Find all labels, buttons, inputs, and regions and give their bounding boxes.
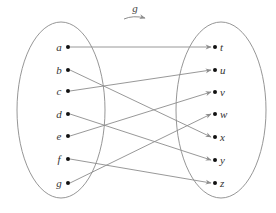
codomain-elements: tuvwxyz — [213, 41, 228, 189]
mapping-arrow-f-to-z — [70, 159, 211, 183]
codomain-element-label: w — [220, 108, 228, 120]
domain-element-a: a — [56, 41, 70, 53]
point-dot-icon — [213, 45, 217, 49]
codomain-element-w: w — [213, 108, 228, 120]
domain-element-label: f — [57, 153, 62, 165]
domain-element-label: d — [56, 108, 62, 120]
codomain-element-label: t — [220, 41, 224, 53]
domain-element-b: b — [56, 64, 70, 76]
codomain-element-label: y — [219, 154, 225, 166]
codomain-element-z: z — [213, 177, 225, 189]
function-name-label: g — [132, 2, 138, 14]
domain-element-label: b — [56, 64, 62, 76]
domain-element-c: c — [57, 85, 70, 97]
domain-element-g: g — [56, 177, 70, 189]
point-dot-icon — [66, 181, 70, 185]
function-arrow-icon — [124, 17, 145, 19]
point-dot-icon — [66, 68, 70, 72]
codomain-element-label: v — [220, 86, 225, 98]
mapping-arrow-d-to-y — [70, 114, 211, 160]
point-dot-icon — [213, 68, 217, 72]
codomain-element-label: u — [220, 64, 226, 76]
domain-element-label: a — [56, 41, 62, 53]
point-dot-icon — [66, 134, 70, 138]
codomain-element-t: t — [213, 41, 224, 53]
point-dot-icon — [66, 45, 70, 49]
function-title: g — [124, 2, 145, 19]
domain-element-d: d — [56, 108, 70, 120]
codomain-element-label: x — [219, 131, 225, 143]
point-dot-icon — [66, 112, 70, 116]
domain-elements: abcdefg — [56, 41, 70, 189]
point-dot-icon — [213, 112, 217, 116]
codomain-element-x: x — [213, 131, 225, 143]
point-dot-icon — [213, 158, 217, 162]
domain-element-label: g — [56, 177, 62, 189]
domain-element-f: f — [57, 153, 70, 165]
codomain-element-v: v — [213, 86, 225, 98]
point-dot-icon — [213, 135, 217, 139]
function-mapping-diagram: g abcdefg tuvwxyz — [0, 0, 276, 213]
codomain-element-u: u — [213, 64, 226, 76]
point-dot-icon — [66, 157, 70, 161]
codomain-element-label: z — [219, 177, 225, 189]
mapping-arrows — [70, 47, 211, 183]
domain-element-e: e — [57, 130, 70, 142]
point-dot-icon — [66, 89, 70, 93]
mapping-arrow-e-to-v — [70, 92, 211, 136]
domain-element-label: e — [57, 130, 62, 142]
domain-element-label: c — [57, 85, 62, 97]
point-dot-icon — [213, 90, 217, 94]
point-dot-icon — [213, 181, 217, 185]
codomain-element-y: y — [213, 154, 225, 166]
